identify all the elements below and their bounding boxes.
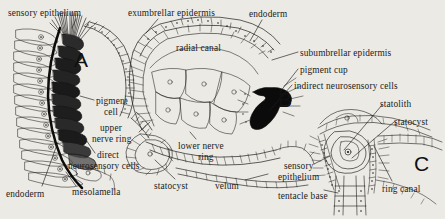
label-pigment-cup: pigment cup xyxy=(300,65,348,75)
label-pigment-cell-line2: cell xyxy=(104,107,118,117)
label-statocyst-panel-b: statocyst xyxy=(154,181,188,191)
panel-label-b: B xyxy=(278,88,292,112)
label-upper-nerve-ring-line2: nerve ring xyxy=(92,134,131,144)
figure-medusa-sensory-structures: A B C sensory epithelium exumbrellar epi… xyxy=(0,0,445,219)
label-radial-canal: radial canal xyxy=(176,43,221,53)
panel-label-c: C xyxy=(414,152,429,176)
label-tentacle-base: tentacle base xyxy=(278,191,328,201)
label-sensory-epithelium-top: sensory epithelium xyxy=(8,8,81,18)
label-lower-nerve-ring-line1: lower nerve xyxy=(178,141,224,151)
label-upper-nerve-ring-line1: upper xyxy=(100,123,122,133)
label-endoderm-top: endoderm xyxy=(249,9,287,19)
label-sensory-epithelium-c-line1: sensory xyxy=(284,161,313,171)
label-indirect-neurosensory-cells: indirect neurosensory cells xyxy=(294,81,398,91)
label-exumbrellar-epidermis: exumbrellar epidermis xyxy=(128,8,215,18)
label-pigment-cell-line1: pigment xyxy=(96,96,128,106)
label-statocyst-panel-c: statocyst xyxy=(394,117,428,127)
label-subumbrellar-epidermis: subumbrellar epidermis xyxy=(300,48,391,58)
panel-label-a: A xyxy=(74,48,88,72)
label-statolith: statolith xyxy=(380,99,411,109)
label-ring-canal: ring canal xyxy=(382,184,420,194)
label-direct-neurosensory-line2: neurosensory cells xyxy=(68,161,140,171)
label-direct-neurosensory-line1: direct xyxy=(97,150,119,160)
label-lower-nerve-ring-line2: ring xyxy=(198,152,214,162)
label-mesolamella: mesolamella xyxy=(72,187,121,197)
label-endoderm-bottom: endoderm xyxy=(6,189,44,199)
label-velum: velum xyxy=(215,181,239,191)
label-sensory-epithelium-c-line2: epithelium xyxy=(278,172,319,182)
